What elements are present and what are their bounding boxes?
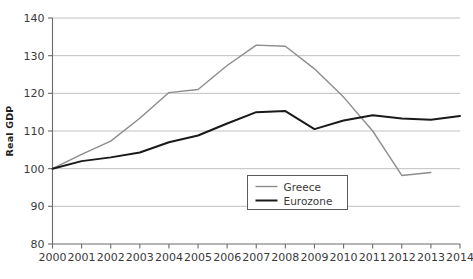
y-axis-ticks xyxy=(48,18,53,244)
x-tick-label-2005: 2005 xyxy=(184,251,212,264)
y-tick-label-80: 80 xyxy=(31,238,45,251)
y-axis-tick-labels: 8090100110120130140 xyxy=(24,12,45,251)
x-tick-label-2007: 2007 xyxy=(242,251,270,264)
x-tick-label-2010: 2010 xyxy=(330,251,358,264)
x-tick-label-2012: 2012 xyxy=(388,251,416,264)
chart-legend: GreeceEurozone xyxy=(248,176,348,210)
data-series-group xyxy=(53,45,461,175)
x-tick-label-2003: 2003 xyxy=(126,251,154,264)
x-tick-label-2002: 2002 xyxy=(97,251,125,264)
legend-label-greece: Greece xyxy=(284,181,321,193)
y-tick-label-120: 120 xyxy=(24,87,45,100)
x-tick-label-2006: 2006 xyxy=(213,251,241,264)
real-gdp-line-chart: 8090100110120130140 20002001200220032004… xyxy=(0,0,473,279)
x-axis-ticks xyxy=(53,244,461,249)
legend-label-eurozone: Eurozone xyxy=(284,195,333,207)
chart-container: 8090100110120130140 20002001200220032004… xyxy=(0,0,473,279)
y-tick-label-130: 130 xyxy=(24,50,45,63)
x-tick-label-2013: 2013 xyxy=(417,251,445,264)
x-tick-label-2001: 2001 xyxy=(68,251,96,264)
x-tick-label-2000: 2000 xyxy=(39,251,67,264)
y-tick-label-100: 100 xyxy=(24,163,45,176)
x-axis-tick-labels: 2000200120022003200420052006200720082009… xyxy=(39,251,473,264)
series-line-eurozone xyxy=(53,111,461,169)
x-tick-label-2011: 2011 xyxy=(359,251,387,264)
series-line-greece xyxy=(53,45,431,175)
x-tick-label-2009: 2009 xyxy=(300,251,328,264)
y-axis-label: Real GDP xyxy=(4,106,15,157)
y-tick-label-140: 140 xyxy=(24,12,45,25)
y-tick-label-110: 110 xyxy=(24,125,45,138)
y-tick-label-90: 90 xyxy=(31,200,45,213)
x-tick-label-2008: 2008 xyxy=(271,251,299,264)
x-tick-label-2004: 2004 xyxy=(155,251,183,264)
x-tick-label-2014: 2014 xyxy=(446,251,473,264)
